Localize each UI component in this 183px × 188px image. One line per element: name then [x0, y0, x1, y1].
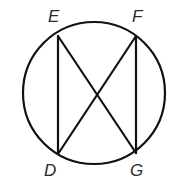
circle: [23, 22, 165, 164]
label-F: F: [132, 7, 144, 26]
label-D: D: [44, 161, 56, 180]
label-E: E: [48, 7, 60, 26]
label-G: G: [130, 161, 143, 180]
circle-chord-diagram: E F D G: [0, 0, 183, 188]
